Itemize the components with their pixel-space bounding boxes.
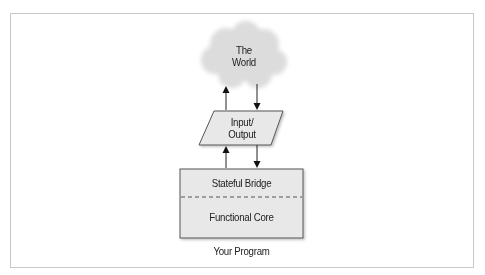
- world-label: The World: [218, 44, 271, 68]
- arrow-program-to-io: [223, 146, 230, 168]
- arrow-io-to-world: [223, 86, 230, 110]
- arrow-io-to-program: [254, 145, 261, 168]
- io-label-line1: Input/: [214, 116, 270, 128]
- functional-core-label: Functional Core: [187, 211, 295, 223]
- stateful-bridge-label: Stateful Bridge: [187, 177, 295, 189]
- io-label: Input/ Output: [214, 116, 270, 140]
- world-label-line1: The: [218, 44, 271, 56]
- program-caption: Your Program: [187, 245, 295, 257]
- world-label-line2: World: [218, 56, 271, 68]
- io-label-line2: Output: [214, 128, 270, 140]
